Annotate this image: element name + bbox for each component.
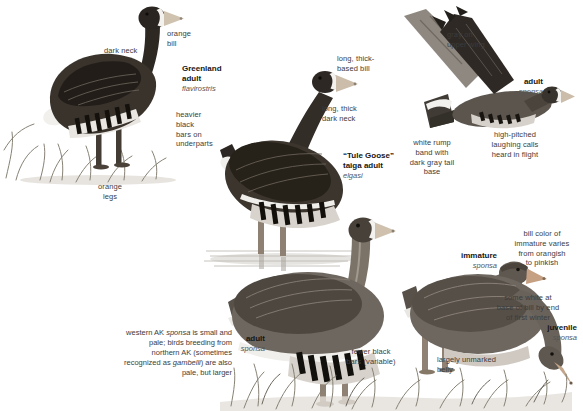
flying-adult-illustration xyxy=(404,6,575,132)
callout-unmarked-belly: largely unmarked belly xyxy=(437,355,496,375)
name-title: “Tule Goose” taiga adult xyxy=(343,151,394,171)
name-subspecies: sponsa xyxy=(497,87,543,96)
western-ak-note: western AK sponsa is small and pale; bir… xyxy=(124,328,232,377)
grass-bottom xyxy=(220,364,572,411)
name-title: juvenile xyxy=(533,323,577,333)
name-title: adult xyxy=(497,77,543,87)
name-subspecies: sponsa xyxy=(227,344,265,353)
name-title: immature xyxy=(453,251,497,261)
goose-wing xyxy=(234,274,362,334)
goose-leg xyxy=(422,336,428,372)
goose-leg xyxy=(116,128,122,164)
goose-foot xyxy=(93,165,109,170)
illustrations xyxy=(0,0,583,411)
callout-white-rump: white rump band with dark gray tail base xyxy=(403,138,461,177)
callout-gray-upper-wing: gray on upper wing xyxy=(447,30,485,50)
name-title: Greenland adult xyxy=(182,64,222,84)
callout-bill-color: bill color of immature varies from orang… xyxy=(512,229,572,268)
callout-some-white: some white at base of bill by end of fir… xyxy=(494,293,562,322)
bill-nail xyxy=(392,230,395,233)
note-text-segment: western AK xyxy=(126,328,166,337)
goose-eye xyxy=(145,12,148,15)
greenland-adult-illustration xyxy=(4,7,184,186)
name-subspecies: elgasi xyxy=(343,171,394,180)
callout-orange-legs: orange legs xyxy=(86,182,134,202)
goose-eye xyxy=(548,91,551,94)
bill-nail xyxy=(180,17,183,20)
note-italic-sponsa: sponsa xyxy=(166,328,190,337)
callout-heavier-bars: heavier black bars on underparts xyxy=(176,110,213,149)
note-italic-gambelli: gambelli xyxy=(173,358,201,367)
name-title: adult xyxy=(227,334,265,344)
name-juvenile: juvenile sponsa xyxy=(533,323,577,342)
name-tule-goose: “Tule Goose” taiga adult elgasi xyxy=(343,151,394,180)
bill-nail xyxy=(354,83,357,86)
bill-nail xyxy=(543,277,546,280)
callout-thick-based-bill: long, thick- based bill xyxy=(337,54,374,74)
name-subspecies: flavirostris xyxy=(182,84,222,93)
callout-laughing-calls: high-pitched laughing calls heard in fli… xyxy=(481,130,549,159)
bill-nail xyxy=(569,381,572,384)
callout-orange-bill: orange bill xyxy=(167,29,191,49)
goose-eye xyxy=(318,76,321,79)
goose-bill xyxy=(526,269,547,285)
callout-dark-neck: dark neck xyxy=(104,46,137,56)
name-subspecies: sponsa xyxy=(453,261,497,270)
callout-thick-dark-neck: long, thick dark neck xyxy=(322,104,357,124)
field-guide-page: dark neck orange bill Greenland adult fl… xyxy=(0,0,583,411)
name-flying-adult: adult sponsa xyxy=(497,77,543,96)
tule-goose-illustration xyxy=(204,71,360,271)
goose-eye xyxy=(550,352,554,356)
name-immature: immature sponsa xyxy=(453,251,497,270)
callout-fewer-bars: fewer black bars (variable) xyxy=(339,347,403,367)
goose-foot xyxy=(419,369,435,374)
goose-bill xyxy=(561,90,575,103)
goose-eye xyxy=(356,224,360,228)
goose-foot xyxy=(114,163,130,168)
name-greenland-adult: Greenland adult flavirostris xyxy=(182,64,222,93)
goose-leg xyxy=(96,130,102,166)
name-subspecies: sponsa xyxy=(533,333,577,342)
name-bottom-adult: adult sponsa xyxy=(227,334,265,353)
goose-eye xyxy=(516,268,520,272)
bottom-adult-illustration xyxy=(228,218,396,407)
